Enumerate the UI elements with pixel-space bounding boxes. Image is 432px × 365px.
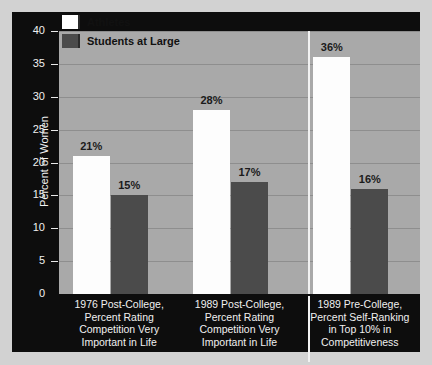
- gridline: [59, 163, 420, 164]
- category-label-line: Competitiveness: [300, 336, 420, 349]
- y-axis-tick: [51, 130, 58, 131]
- y-axis-tick: [51, 195, 58, 196]
- y-axis-tick: [51, 228, 58, 229]
- y-axis-tick-label: 10: [19, 222, 45, 232]
- bar-students: [231, 182, 268, 294]
- y-axis-tick-label: 40: [19, 25, 45, 35]
- legend-label: Athletes: [87, 16, 130, 28]
- category-label-line: Competition Very: [179, 323, 299, 336]
- y-axis-tick-label: 20: [19, 157, 45, 167]
- category-label: 1989 Pre-College,Percent Self-Rankingin …: [300, 298, 420, 348]
- bar-students: [111, 195, 148, 294]
- y-axis-tick: [51, 97, 58, 98]
- legend-label: Students at Large: [87, 35, 180, 47]
- y-axis-tick-label: 5: [19, 255, 45, 265]
- y-axis-tick-label: 35: [19, 58, 45, 68]
- y-axis-tick-label: 15: [19, 189, 45, 199]
- gridline: [59, 64, 420, 65]
- y-axis-tick: [51, 31, 58, 32]
- gridline: [59, 97, 420, 98]
- chart-legend: AthletesStudents at Large: [62, 14, 180, 52]
- y-axis-tick-label: 30: [19, 91, 45, 101]
- legend-item-athletes[interactable]: Athletes: [62, 14, 180, 30]
- category-label-line: Percent Rating: [59, 311, 179, 324]
- category-label: 1989 Post-College,Percent RatingCompetit…: [179, 298, 299, 348]
- category-label-line: 1976 Post-College,: [59, 298, 179, 311]
- bar-value-label: 36%: [307, 41, 356, 53]
- chart-panel: Percent of Women 21%15%28%17%36%16% Athl…: [12, 12, 420, 352]
- category-label-line: Percent Self-Ranking: [300, 311, 420, 324]
- legend-swatch-students-icon: [62, 34, 80, 48]
- y-axis-tick-label: 25: [19, 124, 45, 134]
- bar-athletes: [193, 110, 230, 294]
- group-divider-line: [308, 31, 310, 294]
- bar-value-label: 21%: [67, 140, 116, 152]
- category-label-line: Competition Very: [59, 323, 179, 336]
- category-label-line: 1989 Post-College,: [179, 298, 299, 311]
- category-label-line: Important in Life: [59, 336, 179, 349]
- bar-value-label: 28%: [187, 94, 236, 106]
- plot-area: 21%15%28%17%36%16%: [59, 31, 420, 294]
- legend-item-students[interactable]: Students at Large: [62, 33, 180, 49]
- chart-figure: Percent of Women 21%15%28%17%36%16% Athl…: [0, 0, 432, 365]
- bar-students: [351, 189, 388, 294]
- category-label-line: in Top 10% in: [300, 323, 420, 336]
- bar-value-label: 15%: [105, 179, 154, 191]
- category-label-line: 1989 Pre-College,: [300, 298, 420, 311]
- category-label-line: Important in Life: [179, 336, 299, 349]
- gridline: [59, 130, 420, 131]
- y-axis-tick: [51, 261, 58, 262]
- category-label: 1976 Post-College,Percent RatingCompetit…: [59, 298, 179, 348]
- y-axis-tick: [51, 163, 58, 164]
- y-axis-tick-label: 0: [19, 288, 45, 298]
- category-divider-line: [308, 296, 310, 362]
- bar-athletes: [73, 156, 110, 294]
- bar-value-label: 16%: [345, 173, 394, 185]
- category-label-line: Percent Rating: [179, 311, 299, 324]
- y-axis-tick: [51, 64, 58, 65]
- bar-value-label: 17%: [225, 166, 274, 178]
- legend-swatch-athletes-icon: [62, 15, 80, 29]
